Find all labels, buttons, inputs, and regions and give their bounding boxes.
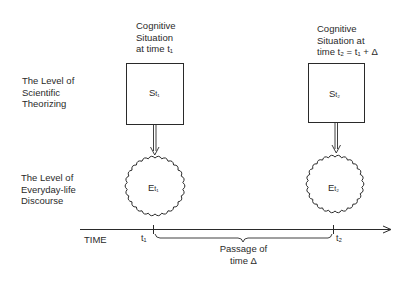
cloud-2-label: Et₂ xyxy=(328,182,339,195)
tick-t1-label: t₁ xyxy=(141,233,147,245)
level-scientific-line-2: Scientific xyxy=(22,87,74,99)
cloud-1-label: Et₁ xyxy=(148,182,159,195)
tick-t2-label: t₂ xyxy=(336,233,342,245)
brace-label-line-1: Passage of xyxy=(216,243,271,255)
cloud-1-subscript: t₁ xyxy=(154,185,158,192)
time-axis xyxy=(80,225,391,234)
situation-2-caption: Cognitive Situation at time t₂ = t₁ + Δ xyxy=(317,23,378,58)
time-axis-label: TIME xyxy=(84,234,107,246)
level-everyday-line-3: Discourse xyxy=(21,195,76,207)
level-scientific-line-3: Theorizing xyxy=(22,98,74,110)
box-1-label: St₁ xyxy=(149,87,160,100)
passage-of-time-label: Passage of time Δ xyxy=(216,243,271,266)
situation-1-caption: Cognitive Situation at time t₁ xyxy=(136,20,176,55)
caption-1-line-2: Situation xyxy=(136,32,176,44)
box-2-subscript: t₂ xyxy=(335,91,340,98)
box-1-subscript: t₁ xyxy=(155,90,159,97)
caption-2-line-3: time t₂ = t₁ + Δ xyxy=(317,46,378,58)
level-everyday-label: The Level of Everyday-life Discourse xyxy=(21,172,76,207)
caption-1-line-1: Cognitive xyxy=(136,20,176,32)
level-everyday-line-2: Everyday-life xyxy=(21,184,76,196)
level-scientific-label: The Level of Scientific Theorizing xyxy=(22,75,74,110)
caption-2-line-2: Situation at xyxy=(317,35,378,47)
down-arrow-icon-1 xyxy=(151,124,160,155)
level-everyday-line-1: The Level of xyxy=(21,172,76,184)
cloud-2-subscript: t₂ xyxy=(334,185,339,192)
caption-1-line-3: at time t₁ xyxy=(136,43,176,55)
caption-2-line-1: Cognitive xyxy=(317,23,378,35)
box-2-label: St₂ xyxy=(329,88,340,101)
passage-brace xyxy=(155,234,332,242)
down-arrow-icon-2 xyxy=(332,122,341,153)
brace-label-line-2: time Δ xyxy=(216,255,271,267)
level-scientific-line-1: The Level of xyxy=(22,75,74,87)
